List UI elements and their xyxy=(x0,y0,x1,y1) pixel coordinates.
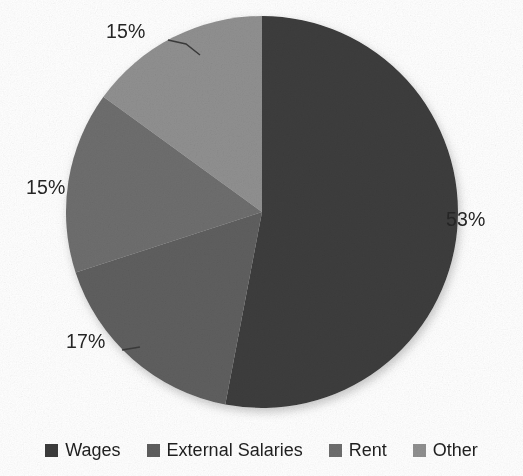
pie-svg xyxy=(0,0,523,420)
legend-swatch-icon xyxy=(45,444,58,457)
pie-chart: 15% 15% 17% 53% WagesExternal SalariesRe… xyxy=(0,0,523,476)
data-label-other: 15% xyxy=(106,22,145,42)
data-label-external-salaries: 17% xyxy=(66,332,105,352)
legend-item[interactable]: External Salaries xyxy=(147,441,303,459)
legend-item[interactable]: Rent xyxy=(329,441,387,459)
legend-item[interactable]: Wages xyxy=(45,441,120,459)
legend-item-label: External Salaries xyxy=(167,441,303,459)
legend-item-label: Rent xyxy=(349,441,387,459)
legend-swatch-icon xyxy=(147,444,160,457)
chart-legend: WagesExternal SalariesRentOther xyxy=(0,434,523,466)
pie-plot-area: 15% 15% 17% 53% xyxy=(0,0,523,420)
legend-item-label: Other xyxy=(433,441,478,459)
data-label-rent: 15% xyxy=(26,178,65,198)
legend-item-label: Wages xyxy=(65,441,120,459)
legend-item[interactable]: Other xyxy=(413,441,478,459)
legend-swatch-icon xyxy=(329,444,342,457)
legend-swatch-icon xyxy=(413,444,426,457)
data-label-wages: 53% xyxy=(446,210,485,230)
